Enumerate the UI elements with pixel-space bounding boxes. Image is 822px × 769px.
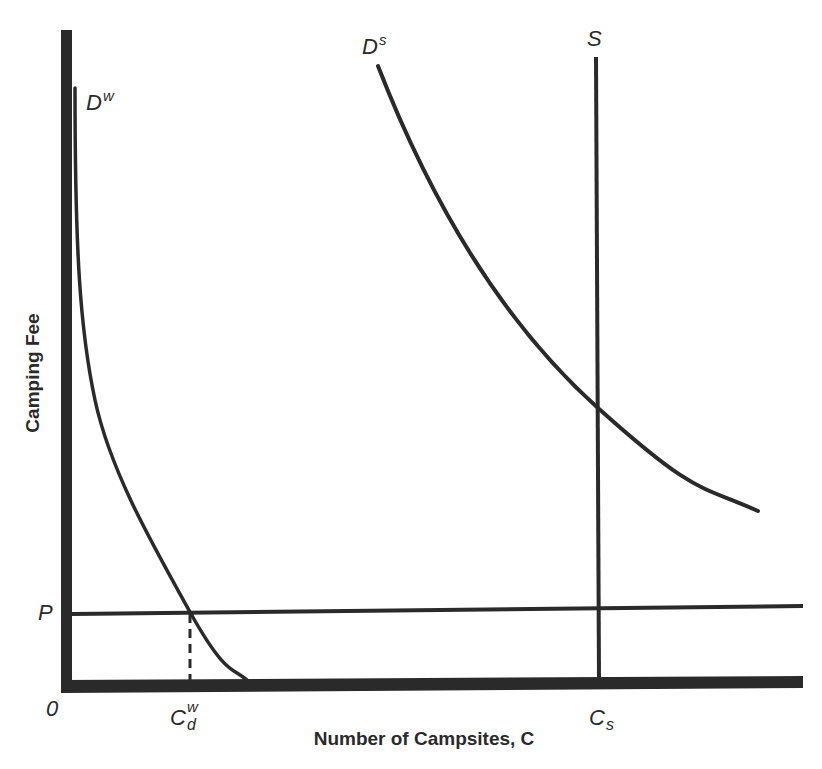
label-supply: S — [587, 28, 602, 50]
label-origin: 0 — [46, 698, 58, 720]
label-price-p: P — [38, 602, 53, 624]
label-quantity-supplied: Cs — [589, 707, 614, 729]
label-quantity-demanded-winter: Cwd — [170, 707, 200, 729]
x-axis — [61, 676, 803, 693]
summer-demand-curve — [378, 66, 758, 511]
y-axis-title: Camping Fee — [22, 313, 44, 432]
y-axis — [61, 30, 72, 692]
x-axis-title: Number of Campsites, C — [314, 728, 535, 750]
label-winter-demand: Dw — [86, 92, 114, 114]
price-line — [72, 606, 803, 614]
plot-area — [0, 0, 822, 769]
supply-line — [596, 57, 599, 680]
label-summer-demand: Ds — [362, 36, 386, 58]
supply-demand-diagram: Dw Ds S P 0 Cwd Cs Camping Fee Number of… — [0, 0, 822, 769]
winter-demand-curve — [75, 88, 252, 685]
